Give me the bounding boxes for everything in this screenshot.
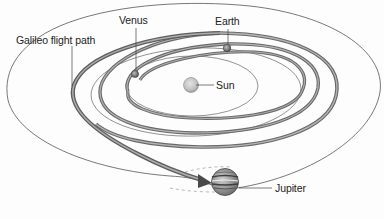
jupiter-label: Jupiter xyxy=(275,183,306,194)
venus-label: Venus xyxy=(119,15,148,26)
galileo-flight-path-ribbon xyxy=(73,33,337,180)
earth-planet-icon xyxy=(223,44,231,52)
jupiter-planet-icon xyxy=(212,169,239,196)
earth-label: Earth xyxy=(215,16,240,27)
diagram-graphics xyxy=(0,0,384,219)
galileo-trajectory-diagram: Venus Earth Sun Jupiter Galileo flight p… xyxy=(0,0,384,219)
jupiter-orbit xyxy=(7,3,381,190)
venus-planet-icon xyxy=(131,70,138,77)
sun-label: Sun xyxy=(216,80,234,91)
flight-path-label: Galileo flight path xyxy=(16,35,95,46)
arrowhead-icon xyxy=(198,174,212,188)
